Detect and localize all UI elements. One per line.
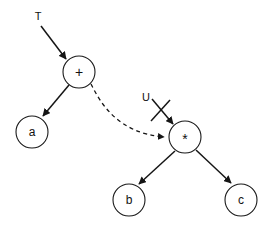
node-plus: +: [63, 56, 95, 88]
pointer-t-arrow: [41, 26, 66, 59]
pointer-u-label: U: [142, 91, 150, 103]
tree-canvas: T U + a * b: [0, 0, 268, 226]
node-a: a: [16, 116, 48, 148]
pointer-u-arrow: [152, 99, 173, 124]
pointer-t-label: T: [35, 10, 42, 22]
pointer-u-group: U: [142, 91, 173, 124]
edge-times-to-c: [196, 150, 231, 183]
node-b: b: [113, 184, 145, 216]
node-times-label: *: [182, 131, 188, 147]
expression-tree-diagram: T U + a * b: [0, 0, 268, 226]
node-times: *: [169, 121, 201, 153]
edge-plus-to-times: [91, 84, 164, 137]
edge-plus-to-a: [43, 85, 69, 116]
edge-times-to-b: [139, 151, 175, 184]
pointer-t-group: T: [35, 10, 66, 59]
node-b-label: b: [126, 193, 133, 207]
node-a-label: a: [29, 125, 36, 139]
node-c-label: c: [238, 193, 244, 207]
node-c: c: [225, 184, 257, 216]
node-plus-label: +: [75, 64, 83, 80]
